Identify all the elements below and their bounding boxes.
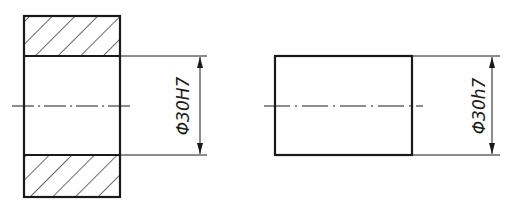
shaft-dimension-label: Φ30h7 — [469, 78, 489, 135]
hole-dimension-label: Φ30H7 — [173, 77, 193, 136]
arrow-up-icon — [197, 57, 203, 68]
arrow-up-icon — [489, 57, 495, 68]
bottom-wall-hatch — [24, 155, 120, 197]
arrow-down-icon — [489, 143, 495, 154]
arrow-down-icon — [197, 143, 203, 154]
technical-drawing: Φ30H7 Φ30h7 — [0, 0, 513, 208]
shaft-part: Φ30h7 — [264, 56, 500, 155]
top-wall-hatch — [24, 16, 120, 56]
hole-part: Φ30H7 — [12, 16, 207, 197]
